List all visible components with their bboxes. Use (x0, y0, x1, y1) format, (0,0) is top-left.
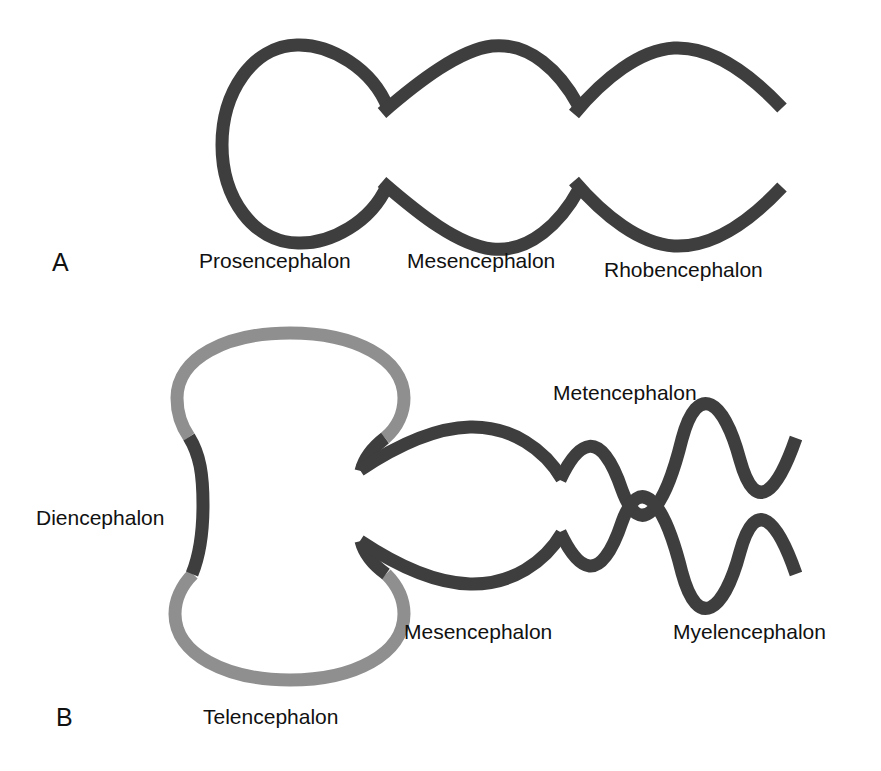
rhombencephalon-upper-arc-path (574, 48, 782, 114)
panel-a-group: A Prosencephalon Mesencephalon Rhobencep… (52, 45, 782, 281)
telencephalon-lower-path (175, 574, 404, 680)
panel-a-letter: A (52, 248, 69, 276)
label-prosencephalon: Prosencephalon (199, 249, 351, 272)
label-metencephalon: Metencephalon (553, 381, 697, 404)
mesencephalon-upper-arc-path (382, 46, 578, 113)
prosencephalon-vesicle-path (222, 45, 388, 243)
met-myelencephalon-upper-wave-path (560, 404, 796, 516)
diencephalon-left-wall-path (189, 437, 203, 574)
panel-b-group: B Diencephalon Telencephalon Mesencephal… (36, 333, 826, 731)
label-myelencephalon: Myelencephalon (673, 620, 826, 643)
label-mesencephalon-a: Mesencephalon (407, 249, 555, 272)
figure-canvas: A Prosencephalon Mesencephalon Rhobencep… (0, 0, 881, 771)
rhombencephalon-lower-arc-path (574, 181, 782, 246)
panel-b-letter: B (56, 703, 73, 731)
telencephalon-upper-path (177, 333, 404, 438)
mesencephalon-lower-arc-path (382, 182, 579, 249)
label-rhombencephalon: Rhobencephalon (604, 258, 763, 281)
met-myelencephalon-lower-wave-path (560, 497, 796, 609)
label-mesencephalon-b: Mesencephalon (404, 620, 552, 643)
brain-vesicle-figure: A Prosencephalon Mesencephalon Rhobencep… (0, 0, 881, 771)
label-diencephalon: Diencephalon (36, 506, 164, 529)
label-telencephalon: Telencephalon (203, 705, 338, 728)
